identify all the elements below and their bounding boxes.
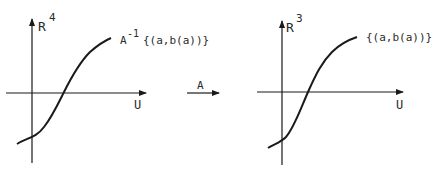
left-u-label: U	[134, 98, 141, 112]
diagram-canvas: R 4 U A -1 {(a,b(a))} A R 3 U {(a,b(a))}	[0, 0, 440, 169]
mapping-arrow: A	[187, 79, 219, 93]
left-curve	[17, 38, 111, 144]
left-curve-label-prefix: A	[120, 34, 127, 47]
right-axis-label: R	[286, 20, 294, 35]
right-u-label: U	[396, 98, 403, 112]
left-curve-label-exponent: -1	[127, 28, 139, 39]
mapping-arrow-label: A	[197, 79, 204, 92]
right-diagram: R 3 U {(a,b(a))}	[257, 12, 432, 165]
left-curve-label-set: {(a,b(a))}	[143, 34, 209, 47]
left-diagram: R 4 U A -1 {(a,b(a))}	[6, 11, 209, 163]
right-curve-label-set: {(a,b(a))}	[366, 31, 432, 44]
left-axis-exponent: 4	[49, 11, 56, 24]
right-axis-exponent: 3	[296, 12, 303, 25]
left-axis-label: R	[38, 19, 46, 34]
